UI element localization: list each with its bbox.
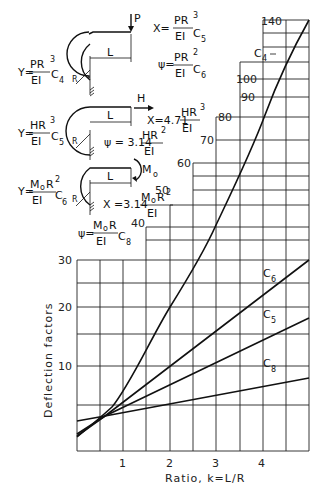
- svg-text:C: C: [193, 63, 201, 76]
- label-c6: C 6: [263, 267, 276, 284]
- svg-text:2: 2: [161, 126, 166, 135]
- formula-p-y: Y= PR 3 EI C 4: [17, 55, 64, 87]
- svg-text:EI: EI: [175, 30, 185, 43]
- svg-text:R: R: [157, 191, 165, 204]
- svg-text:EI: EI: [32, 194, 42, 207]
- svg-text:2: 2: [55, 175, 60, 184]
- svg-text:6: 6: [201, 71, 206, 80]
- svg-text:M: M: [142, 163, 152, 176]
- formula-h-y: Y= HR 3 EI C 5: [17, 116, 64, 148]
- svg-text:140: 140: [261, 15, 282, 28]
- svg-text:5: 5: [201, 35, 206, 44]
- svg-text:40: 40: [131, 217, 145, 230]
- svg-text:C: C: [118, 230, 126, 243]
- svg-text:C: C: [263, 308, 271, 321]
- y-axis-title: Deflection factors: [42, 302, 55, 418]
- svg-text:C: C: [254, 47, 262, 60]
- x-axis-title: Ratio, k=L/R: [165, 472, 245, 485]
- label-c8: C 8: [263, 357, 276, 374]
- lower-grid: [77, 260, 309, 451]
- svg-text:R: R: [109, 219, 117, 232]
- formula-p-psi: ψ= PR 2 EI C 6: [158, 48, 206, 80]
- svg-text:2: 2: [166, 188, 171, 197]
- svg-text:6: 6: [271, 275, 276, 284]
- svg-text:M: M: [93, 219, 103, 232]
- svg-text:o: o: [151, 196, 156, 205]
- svg-text:C: C: [51, 68, 59, 81]
- svg-text:PR: PR: [30, 58, 45, 71]
- svg-text:PR: PR: [174, 14, 189, 27]
- svg-text:P: P: [134, 12, 141, 25]
- svg-text:EI: EI: [144, 145, 154, 158]
- label-c4: C 4: [254, 47, 276, 63]
- upper-grid: [146, 20, 309, 260]
- svg-text:R: R: [72, 137, 78, 146]
- svg-text:EI: EI: [175, 67, 185, 80]
- svg-text:4: 4: [258, 457, 265, 470]
- svg-text:C: C: [263, 267, 271, 280]
- svg-text:H: H: [137, 92, 145, 105]
- svg-text:60: 60: [177, 157, 191, 170]
- diagram-horizontal-load: H L R: [66, 92, 154, 160]
- svg-text:70: 70: [200, 134, 214, 147]
- svg-text:30: 30: [58, 254, 72, 267]
- diagram-point-load: P L R: [67, 12, 141, 96]
- svg-text:o: o: [153, 170, 158, 179]
- svg-text:2: 2: [166, 457, 173, 470]
- svg-text:HR: HR: [181, 106, 197, 119]
- svg-text:L: L: [107, 46, 114, 59]
- formula-m-x: X =3.14 M o R 2 EI: [103, 188, 173, 220]
- formula-p-x: X= PR 3 EI C 5: [153, 11, 206, 44]
- svg-text:ψ=: ψ=: [158, 58, 174, 71]
- svg-text:3: 3: [50, 116, 55, 125]
- svg-text:PR: PR: [174, 51, 189, 64]
- svg-text:L: L: [107, 109, 114, 122]
- svg-text:EI: EI: [31, 74, 41, 87]
- label-c5: C 5: [263, 308, 276, 325]
- svg-text:EI: EI: [147, 207, 157, 220]
- svg-text:2: 2: [193, 48, 198, 57]
- svg-text:EI: EI: [31, 135, 41, 148]
- svg-text:R: R: [72, 75, 78, 84]
- svg-text:1: 1: [119, 457, 126, 470]
- svg-text:90: 90: [241, 91, 255, 104]
- svg-text:M: M: [141, 191, 151, 204]
- svg-text:4: 4: [59, 76, 64, 85]
- svg-text:C: C: [193, 27, 201, 40]
- svg-text:X=: X=: [153, 22, 170, 35]
- svg-text:R: R: [72, 195, 78, 204]
- svg-text:8: 8: [126, 238, 131, 247]
- svg-text:o: o: [103, 224, 108, 233]
- svg-text:5: 5: [59, 138, 64, 147]
- svg-text:100: 100: [236, 73, 257, 86]
- formula-m-psi: ψ= M o R EI C 8: [78, 219, 131, 248]
- svg-text:EI: EI: [96, 235, 106, 248]
- svg-text:C: C: [51, 130, 59, 143]
- svg-text:3: 3: [50, 55, 55, 64]
- svg-text:8: 8: [271, 365, 276, 374]
- svg-text:80: 80: [218, 111, 232, 124]
- svg-text:10: 10: [58, 360, 72, 373]
- svg-text:EI: EI: [182, 122, 192, 135]
- formula-h-psi: ψ = 3.14 HR 2 EI: [104, 126, 166, 158]
- x-tick-labels: 1 2 3 4: [119, 457, 265, 470]
- svg-text:HR: HR: [142, 129, 158, 142]
- svg-text:6: 6: [62, 198, 67, 207]
- svg-text:ψ=: ψ=: [78, 227, 94, 240]
- svg-text:o: o: [40, 183, 45, 192]
- svg-text:3: 3: [212, 457, 219, 470]
- svg-text:M: M: [30, 178, 40, 191]
- svg-text:R: R: [46, 178, 54, 191]
- svg-text:C: C: [263, 357, 271, 370]
- svg-text:5: 5: [271, 316, 276, 325]
- svg-text:L: L: [107, 170, 114, 183]
- svg-text:4: 4: [262, 54, 267, 63]
- formula-m-y: Y= M o R 2 EI C 6: [17, 175, 67, 207]
- svg-text:3: 3: [193, 11, 198, 20]
- svg-text:HR: HR: [30, 119, 46, 132]
- svg-text:3: 3: [200, 103, 205, 112]
- deflection-factor-chart: C 4 C 6 C 5 C 8 30 20 10 40 50 60 70 80 …: [0, 0, 323, 495]
- svg-text:20: 20: [58, 301, 72, 314]
